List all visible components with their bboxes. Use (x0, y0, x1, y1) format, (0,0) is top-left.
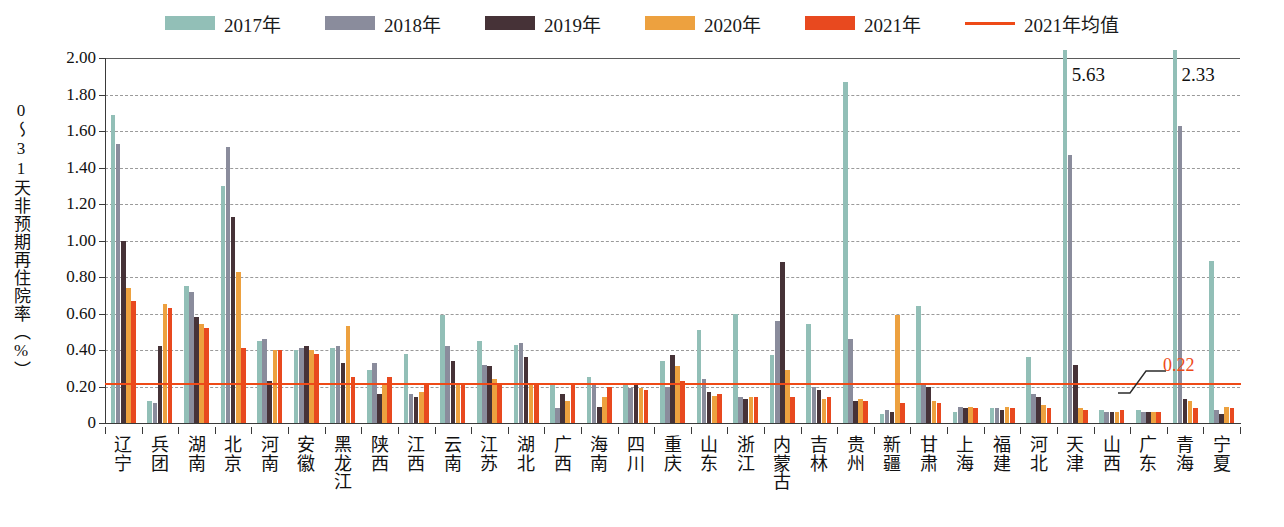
bar[interactable] (241, 348, 246, 423)
bar[interactable] (858, 399, 863, 423)
bar[interactable] (602, 397, 607, 423)
bar[interactable] (184, 286, 189, 423)
bar[interactable] (702, 379, 707, 423)
bar[interactable] (314, 354, 319, 423)
legend-2019[interactable]: 2019年 (485, 10, 601, 37)
bar[interactable] (1188, 401, 1193, 423)
x-tick-label[interactable]: 云南 (440, 436, 466, 473)
bar[interactable] (717, 394, 722, 423)
bar[interactable] (628, 388, 633, 423)
bar[interactable] (1026, 357, 1031, 423)
x-tick-label[interactable]: 四川 (623, 436, 649, 473)
bar[interactable] (843, 82, 848, 423)
bar[interactable] (377, 394, 382, 423)
bar[interactable] (236, 272, 241, 423)
bar[interactable] (550, 385, 555, 423)
bar[interactable] (330, 348, 335, 423)
bar[interactable] (461, 383, 466, 423)
bar[interactable] (968, 407, 973, 423)
bar[interactable] (1141, 412, 1146, 423)
bar[interactable] (1230, 408, 1235, 423)
bar[interactable] (555, 408, 560, 423)
bar[interactable] (1183, 399, 1188, 423)
bar[interactable] (1063, 50, 1068, 423)
bar[interactable] (346, 326, 351, 423)
bar[interactable] (597, 407, 602, 423)
bar[interactable] (231, 217, 236, 423)
bar[interactable] (456, 383, 461, 423)
bar[interactable] (204, 328, 209, 423)
bar[interactable] (900, 403, 905, 423)
bar[interactable] (1110, 412, 1115, 423)
bar[interactable] (273, 350, 278, 423)
bar[interactable] (424, 383, 429, 423)
x-tick-label[interactable]: 福建 (989, 436, 1015, 473)
bar[interactable] (770, 355, 775, 423)
bar[interactable] (163, 304, 168, 423)
bar[interactable] (937, 403, 942, 423)
bar[interactable] (372, 363, 377, 423)
bar[interactable] (660, 361, 665, 423)
bar[interactable] (712, 396, 717, 423)
bar[interactable] (534, 385, 539, 423)
bar[interactable] (1115, 412, 1120, 423)
bar[interactable] (492, 379, 497, 423)
bar[interactable] (1036, 397, 1041, 423)
legend-2021-mean[interactable]: 2021年均值 (965, 10, 1119, 37)
bar[interactable] (733, 314, 738, 424)
bar[interactable] (524, 357, 529, 423)
bar[interactable] (963, 408, 968, 423)
bar[interactable] (990, 408, 995, 423)
bar[interactable] (634, 383, 639, 423)
bar[interactable] (1151, 412, 1156, 423)
bar[interactable] (1219, 414, 1224, 423)
x-tick-label[interactable]: 甘肃 (916, 436, 942, 473)
bar[interactable] (221, 186, 226, 423)
bar[interactable] (1104, 412, 1109, 423)
bar[interactable] (665, 387, 670, 424)
bar[interactable] (382, 385, 387, 423)
bar[interactable] (309, 350, 314, 423)
x-tick-label[interactable]: 广东 (1135, 436, 1161, 473)
bar[interactable] (168, 308, 173, 423)
bar[interactable] (680, 381, 685, 423)
bar[interactable] (121, 241, 126, 424)
x-tick-label[interactable]: 重庆 (660, 436, 686, 473)
x-tick-label[interactable]: 湖北 (513, 436, 539, 473)
bar[interactable] (367, 370, 372, 423)
bar[interactable] (916, 306, 921, 423)
bar[interactable] (1047, 408, 1052, 423)
bar[interactable] (1010, 408, 1015, 423)
legend-2020[interactable]: 2020年 (645, 10, 761, 37)
bar[interactable] (863, 401, 868, 423)
bar[interactable] (806, 324, 811, 423)
bar[interactable] (953, 412, 958, 423)
bar[interactable] (409, 394, 414, 423)
bar[interactable] (1073, 365, 1078, 423)
bar[interactable] (226, 147, 231, 423)
bar[interactable] (738, 397, 743, 423)
bar[interactable] (675, 366, 680, 423)
x-tick-label[interactable]: 辽宁 (110, 436, 136, 473)
bar[interactable] (1146, 412, 1151, 423)
bar[interactable] (973, 408, 978, 423)
x-tick-label[interactable]: 黑龙江 (330, 436, 356, 492)
bar[interactable] (592, 385, 597, 423)
bar[interactable] (670, 355, 675, 423)
bar[interactable] (565, 401, 570, 423)
bar[interactable] (1120, 410, 1125, 423)
bar[interactable] (294, 350, 299, 423)
x-tick-label[interactable]: 新疆 (879, 436, 905, 473)
bar[interactable] (111, 115, 116, 423)
x-tick-label[interactable]: 青海 (1172, 436, 1198, 473)
bar[interactable] (262, 339, 267, 423)
bar[interactable] (131, 301, 136, 423)
bar[interactable] (743, 399, 748, 423)
x-tick-label[interactable]: 山东 (696, 436, 722, 473)
bar[interactable] (341, 363, 346, 423)
bar[interactable] (1083, 410, 1088, 423)
bar[interactable] (1136, 410, 1141, 423)
bar[interactable] (147, 401, 152, 423)
bar[interactable] (1031, 394, 1036, 423)
bar[interactable] (607, 387, 612, 424)
